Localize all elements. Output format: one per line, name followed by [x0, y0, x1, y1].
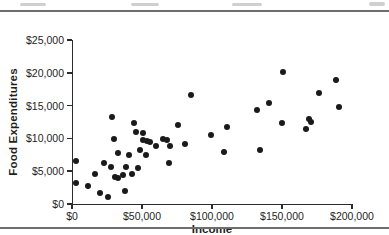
- y-axis-tick: [67, 138, 72, 140]
- x-axis-tick: [71, 204, 73, 209]
- x-axis-tick: [211, 204, 213, 209]
- y-axis-tick: [67, 170, 72, 172]
- x-axis-tick-label: $100,000: [180, 210, 244, 222]
- x-axis-tick: [351, 204, 353, 209]
- cropped-text-fragment: [232, 3, 262, 6]
- data-point: [224, 124, 230, 130]
- y-axis-tick: [67, 39, 72, 41]
- data-point: [131, 120, 137, 126]
- figure-area: Food Expenditures $0$5,000$10,000$15,000…: [0, 0, 389, 235]
- x-axis-tick-label: $200,000: [320, 210, 384, 222]
- y-axis-title: Food Expenditures: [7, 68, 19, 176]
- scatter-chart: Food Expenditures $0$5,000$10,000$15,000…: [0, 12, 389, 227]
- data-point: [333, 77, 339, 83]
- y-axis-tick-label: $15,000: [0, 100, 64, 112]
- y-axis-tick: [67, 72, 72, 74]
- y-axis-tick: [67, 105, 72, 107]
- x-axis-title: Income: [122, 223, 302, 235]
- x-axis-tick-label: $0: [40, 210, 104, 222]
- x-axis-tick-label: $150,000: [250, 210, 314, 222]
- data-point: [101, 160, 107, 166]
- y-axis-tick-label: $0: [0, 198, 64, 210]
- data-point: [73, 158, 79, 164]
- x-axis-tick: [281, 204, 283, 209]
- data-point: [129, 171, 135, 177]
- y-axis-tick-label: $5,000: [0, 165, 64, 177]
- cropped-text-fragment: [369, 2, 385, 6]
- data-point: [254, 107, 260, 113]
- data-point: [97, 190, 103, 196]
- data-point: [108, 164, 114, 170]
- data-point: [166, 160, 172, 166]
- data-point: [85, 183, 91, 189]
- bottom-divider: [0, 227, 389, 229]
- data-point: [257, 147, 263, 153]
- cropped-text-fragment: [20, 3, 46, 6]
- data-point: [153, 143, 159, 149]
- data-point: [208, 132, 214, 138]
- x-axis-tick-label: $50,000: [110, 210, 174, 222]
- data-point: [303, 126, 309, 132]
- y-axis-tick-label: $10,000: [0, 132, 64, 144]
- data-point: [111, 136, 117, 142]
- x-axis-tick: [141, 204, 143, 209]
- y-axis-tick-label: $20,000: [0, 67, 64, 79]
- data-point: [175, 122, 181, 128]
- cropped-text-fragment: [131, 3, 159, 6]
- data-point: [135, 165, 141, 171]
- y-axis-tick-label: $25,000: [0, 34, 64, 46]
